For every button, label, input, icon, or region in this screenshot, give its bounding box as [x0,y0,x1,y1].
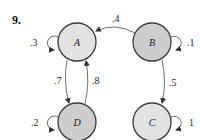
node-label-c: C [149,117,156,128]
edge-a-to-d: .7 [54,60,69,103]
self-loop-d: .2 [31,116,58,130]
edge-b-to-c: .5 [162,60,177,103]
edge-weight-d-a: .8 [92,75,100,86]
node-c: C [133,103,171,140]
node-label-b: B [149,37,155,48]
self-loop-weight-c: 1 [189,117,194,128]
node-label-a: A [73,37,81,48]
self-loop-a: .3 [30,36,58,50]
edge-weight-b-c: .5 [169,77,177,88]
edge-weight-b-a: .4 [112,13,120,24]
problem-number: 9. [12,13,21,27]
self-loop-weight-d: .2 [31,117,39,128]
self-loop-weight-b: .1 [187,37,195,48]
edge-d-to-a: .8 [85,61,100,104]
node-label-d: D [72,117,81,128]
self-loop-weight-a: .3 [30,37,38,48]
self-loop-b: .1 [171,36,195,50]
node-a: A [58,23,96,61]
node-d: D [58,103,96,140]
edge-weight-a-d: .7 [54,75,62,86]
self-loop-c: 1 [171,116,194,130]
edge-b-to-a: .4 [96,13,135,33]
markov-diagram: 9. .4 .7 .8 .5 .3 .1 .2 1 A B [0,0,200,140]
node-b: B [133,23,171,61]
